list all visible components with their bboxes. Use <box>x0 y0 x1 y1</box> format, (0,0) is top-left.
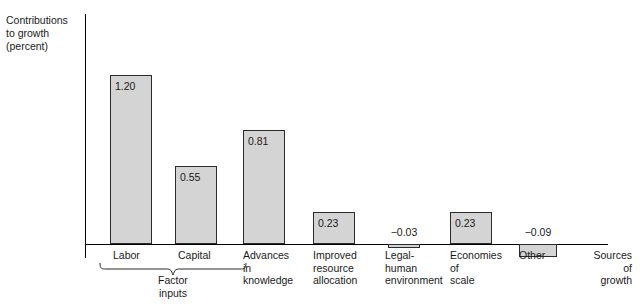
category-label: Labor <box>113 249 140 262</box>
bar-legal <box>388 244 420 248</box>
bar-value-label: 0.23 <box>455 217 475 229</box>
bar-chart: Contributions to growth (percent) 1.200.… <box>0 0 640 307</box>
y-axis-line <box>85 14 86 258</box>
bar-value-label: 0.81 <box>248 135 268 147</box>
category-label: Other <box>519 249 545 262</box>
bar-value-label: 0.55 <box>180 171 200 183</box>
bar-value-label: −0.03 <box>389 226 419 238</box>
bar-advances <box>243 130 285 244</box>
factor-inputs-label: Factor inputs <box>98 274 248 299</box>
category-label: Legal- human environment <box>385 249 443 287</box>
x-axis-end-label: Sources of growth <box>560 249 632 287</box>
y-axis-label: Contributions to growth (percent) <box>6 14 80 53</box>
bar-value-label: 1.20 <box>115 80 135 92</box>
category-label: Advances in knowledge <box>243 249 293 287</box>
category-label: Capital <box>178 249 211 262</box>
bar-labor <box>110 75 152 244</box>
category-label: Improved resource allocation <box>313 249 357 287</box>
category-label: Economies of scale <box>450 249 502 287</box>
bar-value-label: 0.23 <box>318 217 338 229</box>
bar-value-label: −0.09 <box>523 226 553 238</box>
